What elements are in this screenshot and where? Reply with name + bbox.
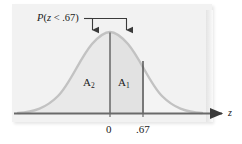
probability-annotation-label: P(z < .67) — [37, 13, 79, 24]
axis-tick-label-67: .67 — [136, 124, 150, 135]
area-label-a2: A2 — [83, 77, 95, 89]
normal-distribution-figure: P(z < .67) A2 A1 0 .67 z — [0, 0, 242, 144]
prob-operator: < — [51, 12, 62, 23]
axis-tick-label-0: 0 — [106, 124, 112, 135]
prob-close-paren: ) — [75, 12, 79, 23]
area-label-a2-subscript: 2 — [91, 81, 95, 90]
area-label-a1: A1 — [118, 77, 130, 89]
prob-value: .67 — [62, 12, 75, 23]
area-label-a1-subscript: 1 — [126, 81, 130, 90]
area-label-a1-letter: A — [118, 76, 126, 88]
axis-label-z: z — [228, 108, 232, 118]
area-label-a2-letter: A — [83, 76, 91, 88]
